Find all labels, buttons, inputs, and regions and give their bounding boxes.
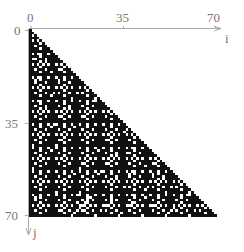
y-axis-label: j <box>33 226 37 239</box>
matrix-on-cells <box>29 29 217 217</box>
x-tick-label-35: 35 <box>116 11 129 24</box>
array-plot <box>0 0 244 252</box>
y-tick-label-70: 70 <box>5 209 18 222</box>
matrix-cells <box>29 29 217 217</box>
x-tick-label-0: 0 <box>27 11 34 24</box>
y-tick-label-35: 35 <box>5 117 18 130</box>
x-axis-label: i <box>225 32 229 45</box>
x-tick-label-70: 70 <box>207 11 220 24</box>
y-tick-label-0: 0 <box>14 24 21 37</box>
